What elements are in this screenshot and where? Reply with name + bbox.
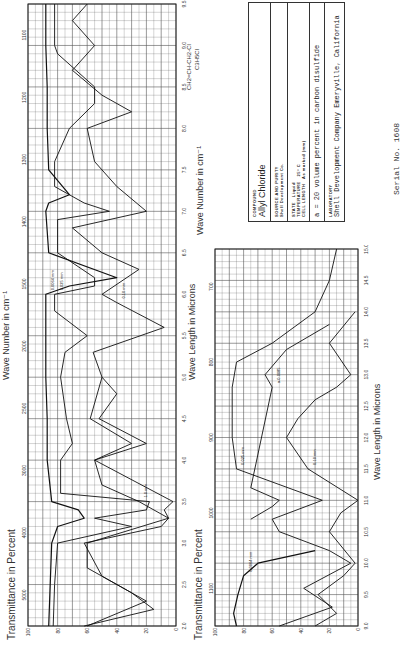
svg-text:14.5: 14.5 (363, 275, 369, 285)
svg-text:12.0: 12.0 (363, 432, 369, 442)
svg-text:7.5: 7.5 (181, 166, 187, 173)
svg-text:1.0 mm: 1.0 mm (143, 484, 148, 498)
spectrum-chart-long-wavelength: 9.09.510.010.511.011.512.012.513.013.514… (205, 245, 370, 640)
svg-text:5000: 5000 (21, 589, 27, 600)
chart-plot-area-2: 9.09.510.010.511.011.512.012.513.013.514… (205, 245, 370, 640)
svg-text:0.0064 mm: 0.0064 mm (50, 270, 55, 291)
svg-text:12.5: 12.5 (363, 401, 369, 411)
svg-text:100: 100 (25, 628, 31, 637)
cell-length-value: As marked (mm) (301, 141, 306, 179)
svg-text:1500: 1500 (21, 278, 27, 289)
svg-text:3.5: 3.5 (181, 498, 187, 505)
svg-text:6.5: 6.5 (181, 249, 187, 256)
svg-text:0: 0 (355, 628, 361, 631)
x2-axis-label-1: Wave Number in cm⁻¹ (1, 291, 11, 380)
svg-text:40: 40 (298, 628, 304, 634)
note-section: a = 20 volume percent in carbon disulfid… (310, 3, 325, 221)
info-box: COMPOUND Allyl Chloride SOURCE AND PURIT… (248, 2, 345, 222)
svg-text:80: 80 (55, 628, 61, 634)
compound-name: Allyl Chloride (257, 7, 267, 217)
svg-text:9.5: 9.5 (181, 0, 187, 7)
svg-text:80: 80 (241, 628, 247, 634)
svg-text:1400: 1400 (21, 216, 27, 227)
svg-text:9.0: 9.0 (363, 622, 369, 629)
conditions-section: STATE Liquid TEMPERATURE 25° C CELL LENG… (288, 3, 310, 221)
laboratory-section: LABORATORY Shell Development Company Eme… (325, 3, 344, 221)
spectrum-chart-short-wavelength: 2.02.53.03.54.04.55.05.56.06.57.07.58.08… (18, 0, 188, 640)
svg-text:40: 40 (114, 628, 120, 634)
svg-text:20: 20 (143, 628, 149, 634)
svg-text:8.0: 8.0 (181, 125, 187, 132)
svg-text:0.025 mm: 0.025 mm (240, 446, 245, 464)
svg-text:2500: 2500 (21, 403, 27, 414)
svg-text:1100: 1100 (21, 30, 27, 41)
svg-text:14.0: 14.0 (363, 307, 369, 317)
svg-text:0: 0 (173, 628, 179, 631)
chart-plot-area-1: 2.02.53.03.54.04.55.05.56.06.57.07.58.08… (18, 0, 188, 640)
y-axis-label-2: Transmittance in Percent (193, 529, 204, 640)
svg-text:0.10 mm: 0.10 mm (312, 449, 317, 465)
svg-text:4.5: 4.5 (181, 415, 187, 422)
svg-text:0.10 mm: 0.10 mm (121, 282, 126, 298)
svg-text:3000: 3000 (21, 465, 27, 476)
svg-text:11.0: 11.0 (363, 495, 369, 505)
svg-text:800: 800 (208, 358, 214, 367)
molecular-formula: C3H5Cl (194, 49, 200, 70)
svg-text:10.0: 10.0 (363, 558, 369, 568)
laboratory-value: Shell Development Company Emeryville, Ca… (333, 7, 341, 217)
svg-text:10.5: 10.5 (363, 527, 369, 537)
svg-text:1300: 1300 (21, 154, 27, 165)
svg-text:a-0.0085: a-0.0085 (276, 367, 281, 384)
x2-axis-label-2: Wave Number in cm⁻¹ (195, 146, 205, 235)
svg-text:15.0: 15.0 (363, 245, 369, 254)
svg-text:60: 60 (84, 628, 90, 634)
compound-section: COMPOUND Allyl Chloride (249, 3, 271, 221)
svg-text:4.0: 4.0 (181, 456, 187, 463)
svg-text:7.0: 7.0 (181, 208, 187, 215)
svg-text:1100: 1100 (208, 583, 214, 594)
svg-text:100: 100 (212, 628, 218, 637)
svg-text:1200: 1200 (21, 92, 27, 103)
svg-text:3.0: 3.0 (181, 539, 187, 546)
svg-text:20: 20 (326, 628, 332, 634)
svg-text:2000: 2000 (21, 340, 27, 351)
source-section: SOURCE AND PURITY Shell Development Co. (271, 3, 288, 221)
svg-text:13.0: 13.0 (363, 370, 369, 380)
svg-text:900: 900 (208, 433, 214, 442)
svg-text:1000: 1000 (208, 507, 214, 518)
source-value: Shell Development Co. (279, 7, 284, 217)
svg-text:0.0064 mm: 0.0064 mm (248, 551, 253, 572)
svg-text:4000: 4000 (21, 527, 27, 538)
x-axis-label-1: Wave Length in Microns (187, 284, 197, 380)
svg-text:13.5: 13.5 (363, 338, 369, 348)
svg-text:700: 700 (208, 282, 214, 291)
svg-text:2.5: 2.5 (181, 581, 187, 588)
structural-formula: CH2=CH-CH2-Cl (186, 44, 192, 90)
x-axis-label-2: Wave Length in Microns (372, 384, 382, 480)
cell-length-label: CELL LENGTH (301, 184, 306, 217)
svg-text:11.5: 11.5 (363, 464, 369, 474)
svg-text:60: 60 (269, 628, 275, 634)
svg-text:2.0: 2.0 (181, 622, 187, 629)
serial-number: Serial No. 1608 (392, 123, 401, 195)
svg-text:0.025 mm: 0.025 mm (59, 272, 64, 290)
svg-text:9.5: 9.5 (363, 591, 369, 598)
y-axis-label-1: Transmittance in Percent (6, 529, 17, 640)
